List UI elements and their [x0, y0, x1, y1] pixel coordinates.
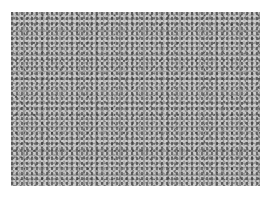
gravel-photo	[11, 12, 260, 186]
